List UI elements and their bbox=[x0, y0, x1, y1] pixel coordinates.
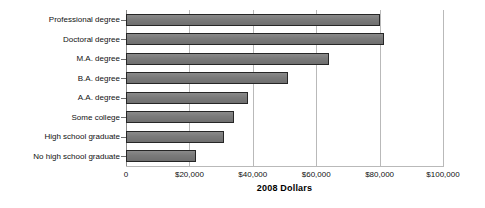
category-label: High school graduate bbox=[0, 132, 120, 141]
bar-row bbox=[126, 108, 443, 128]
bar-row bbox=[126, 30, 443, 50]
category-label: B.A. degree bbox=[0, 74, 120, 83]
x-tick-label: $20,000 bbox=[175, 169, 204, 180]
plot-area bbox=[126, 10, 443, 166]
category-tick bbox=[121, 156, 126, 157]
bar-row bbox=[126, 127, 443, 147]
category-tick bbox=[121, 39, 126, 40]
category-label: Doctoral degree bbox=[0, 35, 120, 44]
category-axis-labels: Professional degreeDoctoral degreeM.A. d… bbox=[0, 10, 120, 166]
category-tick bbox=[121, 59, 126, 60]
bar-2 bbox=[126, 53, 329, 65]
x-axis-baseline bbox=[126, 166, 444, 167]
gridline-100000 bbox=[443, 10, 444, 166]
bar-row bbox=[126, 10, 443, 30]
category-label: A.A. degree bbox=[0, 93, 120, 102]
bar-row bbox=[126, 88, 443, 108]
x-axis-tick-labels: 0$20,000$40,000$60,000$80,000$100,000 bbox=[0, 169, 485, 183]
category-label: Professional degree bbox=[0, 15, 120, 24]
category-label: No high school graduate bbox=[0, 152, 120, 161]
bar-1 bbox=[126, 33, 384, 45]
x-tick-label: 0 bbox=[124, 169, 128, 180]
bar-5 bbox=[126, 111, 234, 123]
bar-row bbox=[126, 69, 443, 89]
bar-0 bbox=[126, 14, 380, 26]
category-tick bbox=[121, 78, 126, 79]
bar-chart: Professional degreeDoctoral degreeM.A. d… bbox=[0, 0, 485, 208]
x-axis-title: 2008 Dollars bbox=[126, 183, 443, 193]
category-tick bbox=[121, 20, 126, 21]
x-tick-label: $100,000 bbox=[426, 169, 459, 180]
x-tick-label: $80,000 bbox=[365, 169, 394, 180]
bar-7 bbox=[126, 150, 196, 162]
bar-6 bbox=[126, 131, 224, 143]
category-tick bbox=[121, 137, 126, 138]
bars-layer bbox=[126, 10, 443, 166]
x-tick-label: $60,000 bbox=[302, 169, 331, 180]
category-label: M.A. degree bbox=[0, 54, 120, 63]
category-label: Some college bbox=[0, 113, 120, 122]
category-tick bbox=[121, 117, 126, 118]
bar-row bbox=[126, 147, 443, 167]
bar-3 bbox=[126, 72, 288, 84]
bar-4 bbox=[126, 92, 248, 104]
bar-row bbox=[126, 49, 443, 69]
category-tick bbox=[121, 98, 126, 99]
x-tick-label: $40,000 bbox=[238, 169, 267, 180]
